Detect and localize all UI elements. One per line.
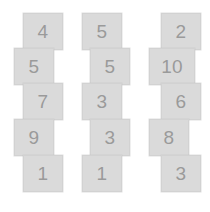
number-tile[interactable]: 5 xyxy=(82,13,122,50)
number-tile[interactable]: 7 xyxy=(23,83,63,120)
number-tile[interactable]: 3 xyxy=(82,83,122,120)
tile-value-label: 10 xyxy=(161,57,183,76)
tile-value-label: 1 xyxy=(97,164,108,183)
tile-value-label: 2 xyxy=(176,22,187,41)
number-tile[interactable]: 1 xyxy=(82,155,122,192)
tile-value-label: 5 xyxy=(97,22,108,41)
number-tile[interactable]: 9 xyxy=(14,119,54,156)
number-tile[interactable]: 5 xyxy=(14,48,54,85)
tile-value-label: 5 xyxy=(29,57,40,76)
number-tile[interactable]: 3 xyxy=(161,155,201,192)
number-tile[interactable]: 3 xyxy=(90,119,130,156)
tile-value-label: 1 xyxy=(38,164,49,183)
tile-value-label: 4 xyxy=(38,22,49,41)
tile-value-label: 3 xyxy=(97,92,108,111)
tile-column-1: 45791 xyxy=(0,0,70,212)
number-tile[interactable]: 10 xyxy=(149,48,195,85)
tile-value-label: 8 xyxy=(164,128,175,147)
number-tile[interactable]: 4 xyxy=(23,13,63,50)
number-tile[interactable]: 2 xyxy=(161,13,201,50)
tile-value-label: 5 xyxy=(105,57,116,76)
tile-value-label: 3 xyxy=(105,128,116,147)
number-tile[interactable]: 6 xyxy=(161,83,201,120)
tile-value-label: 6 xyxy=(176,92,187,111)
number-tile[interactable]: 1 xyxy=(23,155,63,192)
tile-value-label: 9 xyxy=(29,128,40,147)
tile-column-3: 210683 xyxy=(138,0,208,212)
tile-value-label: 3 xyxy=(176,164,187,183)
number-tile[interactable]: 8 xyxy=(149,119,189,156)
number-tile[interactable]: 5 xyxy=(90,48,130,85)
tile-value-label: 7 xyxy=(38,92,49,111)
tile-board: 4579155331210683 xyxy=(0,0,210,212)
tile-column-2: 55331 xyxy=(68,0,138,212)
